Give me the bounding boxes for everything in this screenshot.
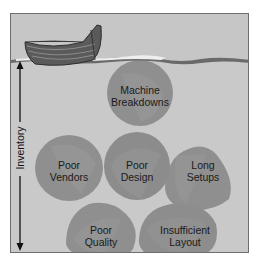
- rock-label-insufficient-layout: Insufficient Layout: [160, 224, 210, 248]
- rock-label-line1: Machine: [111, 84, 169, 96]
- rock-label-line1: Long: [187, 159, 220, 171]
- rock-label-poor-vendors: Poor Vendors: [50, 159, 89, 183]
- rock-label-line2: Breakdowns: [111, 96, 169, 108]
- rock-label-line1: Poor: [121, 159, 154, 171]
- inventory-axis-label: Inventory: [14, 126, 26, 169]
- diagram-frame: Machine Breakdowns Poor Vendors Poor Des…: [10, 13, 249, 253]
- rock-label-long-setups: Long Setups: [187, 159, 220, 183]
- rock-label-line1: Poor: [85, 224, 118, 236]
- rock-label-line2: Setups: [187, 171, 220, 183]
- rock-label-poor-quality: Poor Quality: [85, 224, 118, 248]
- rock-label-line1: Insufficient: [160, 224, 210, 236]
- rock-label-line2: Design: [121, 171, 154, 183]
- rock-label-line1: Poor: [50, 159, 89, 171]
- rock-label-poor-design: Poor Design: [121, 159, 154, 183]
- rock-label-machine-breakdowns: Machine Breakdowns: [111, 84, 169, 108]
- rock-label-line2: Vendors: [50, 171, 89, 183]
- rock-label-line2: Layout: [160, 236, 210, 248]
- rock-label-line2: Quality: [85, 236, 118, 248]
